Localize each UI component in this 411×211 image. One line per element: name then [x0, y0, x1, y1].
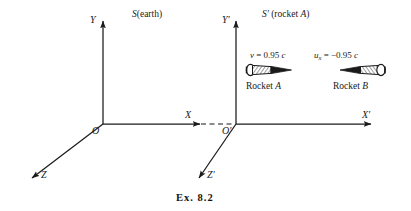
axis-label-Z-prime: Z′ — [207, 170, 215, 180]
rocket-b-icon — [340, 64, 385, 75]
rocket-b-label-prefix: Rocket — [333, 81, 362, 91]
axes-frame-S-prime — [199, 21, 371, 178]
rocket-b-label-symbol: B — [362, 81, 368, 91]
axis-label-X: X — [185, 110, 191, 120]
rocket-a-label-prefix: Rocket — [246, 81, 275, 91]
velocity-value-b: −0.95 — [331, 50, 352, 60]
velocity-label-rocket-a: v = 0.95 c — [250, 51, 286, 60]
velocity-equals-b: = — [321, 50, 331, 60]
figure-caption: Ex. 8.2 — [176, 192, 214, 203]
axis-label-Y: Y — [90, 15, 96, 25]
velocity-label-rocket-b: ux = −0.95 c — [314, 51, 358, 62]
physics-figure: Y X Z O Y′ X′ Z′ O′ S(earth) S′ (rocket … — [0, 0, 411, 211]
diagram-canvas — [0, 0, 411, 211]
axis-label-Z: Z — [41, 170, 47, 180]
velocity-unit-a: c — [282, 50, 286, 60]
rocket-a-label-symbol: A — [275, 81, 281, 91]
frame-label-S-paren: (earth) — [137, 9, 162, 19]
frame-label-S-prime-rocket: A — [300, 9, 306, 19]
axis-label-X-prime: X′ — [362, 110, 370, 120]
origin-label-O-prime: O′ — [222, 126, 231, 136]
frame-label-S-prime: S′ (rocket A) — [262, 10, 309, 20]
velocity-unit-b: c — [354, 50, 358, 60]
frame-label-S: S(earth) — [132, 10, 162, 20]
origin-label-O: O — [92, 126, 99, 136]
velocity-equals-a: = — [254, 50, 264, 60]
velocity-value-a: 0.95 — [264, 50, 280, 60]
rocket-b-label: Rocket B — [333, 82, 368, 92]
frame-label-S-prime-symbol: S′ — [262, 9, 269, 19]
axis-label-Y-prime: Y′ — [222, 15, 230, 25]
frame-label-S-prime-paren: (rocket A) — [271, 9, 309, 19]
rocket-a-label: Rocket A — [246, 82, 281, 92]
axes-frame-S — [32, 21, 232, 178]
rocket-a-icon — [246, 64, 291, 75]
